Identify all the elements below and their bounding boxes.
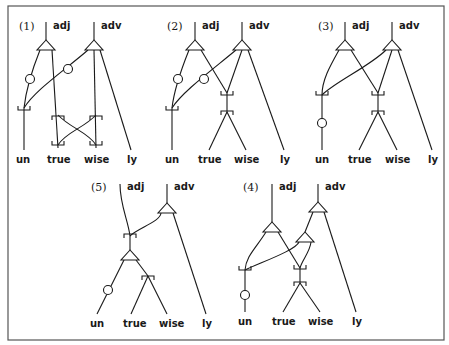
root-label-adj: adj	[279, 181, 296, 192]
leaf-wise: wise	[84, 154, 110, 165]
node-triangle	[263, 222, 281, 232]
panel-3: (3) adj adv un true wise ly	[315, 20, 438, 165]
root-label-adj: adj	[127, 181, 144, 192]
null-circle	[241, 291, 250, 300]
panel-4: (4) adj adv un true wise ly	[238, 181, 362, 327]
node-triangle	[186, 40, 204, 50]
node-triangle	[383, 40, 401, 50]
null-circle	[104, 286, 113, 295]
panel-2: (2) adj adv un true wise ly	[165, 20, 290, 165]
leaf-true: true	[123, 318, 147, 329]
node-triangle	[158, 203, 176, 213]
root-label-adv: adv	[174, 181, 195, 192]
panel-1: (1) adj adv un true wise ly	[16, 20, 137, 165]
null-circle	[318, 119, 327, 128]
leaf-ly: ly	[352, 316, 362, 327]
root-label-adj: adj	[53, 20, 70, 31]
null-circle	[174, 75, 183, 84]
null-circle	[26, 75, 35, 84]
root-label-adv: adv	[101, 20, 122, 31]
leaf-un: un	[90, 318, 104, 329]
node-triangle	[85, 40, 103, 50]
leaf-true: true	[198, 154, 222, 165]
null-circle	[64, 65, 73, 74]
node-triangle	[121, 250, 139, 260]
leaf-un: un	[16, 154, 30, 165]
leaf-wise: wise	[385, 154, 411, 165]
leaf-un: un	[315, 154, 329, 165]
root-label-adv: adv	[399, 20, 420, 31]
leaf-true: true	[272, 316, 296, 327]
node-triangle	[233, 40, 251, 50]
root-label-adv: adv	[325, 181, 346, 192]
panel-5: (5) adj adv un true wise ly	[90, 181, 212, 329]
root-label-adj: adj	[202, 20, 219, 31]
leaf-ly: ly	[202, 318, 212, 329]
root-label-adj: adj	[352, 20, 369, 31]
leaf-wise: wise	[159, 318, 185, 329]
node-triangle	[309, 202, 327, 212]
leaf-ly: ly	[127, 154, 137, 165]
panel-number: (5)	[91, 181, 107, 194]
leaf-true: true	[47, 154, 71, 165]
root-label-adv: adv	[249, 20, 270, 31]
leaf-un: un	[238, 316, 252, 327]
leaf-wise: wise	[234, 154, 260, 165]
null-circle	[200, 75, 209, 84]
panel-number: (4)	[243, 181, 259, 194]
diagram-figure: (1) adj adv un true wise ly	[0, 0, 449, 345]
leaf-true: true	[348, 154, 372, 165]
panel-number: (1)	[19, 20, 35, 33]
node-triangle	[296, 232, 314, 242]
leaf-un: un	[165, 154, 179, 165]
leaf-wise: wise	[308, 316, 334, 327]
leaf-ly: ly	[280, 154, 290, 165]
panel-number: (3)	[318, 20, 334, 33]
panel-number: (2)	[167, 20, 183, 33]
node-triangle	[336, 40, 354, 50]
leaf-ly: ly	[428, 154, 438, 165]
node-triangle	[37, 40, 55, 50]
